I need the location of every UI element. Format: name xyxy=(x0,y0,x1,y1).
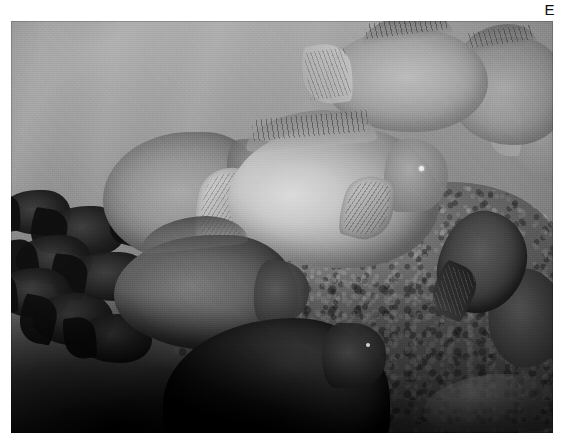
fish-bottom xyxy=(163,318,391,433)
fish-head xyxy=(322,323,386,387)
underwater-reef-photograph xyxy=(11,21,553,433)
figure-label: E xyxy=(544,2,555,18)
fish-eye xyxy=(366,343,370,347)
page-canvas: E xyxy=(0,0,565,445)
fish-reef-right xyxy=(439,211,526,314)
